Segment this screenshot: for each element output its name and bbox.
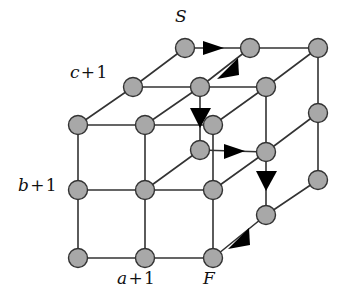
label-axis-a-var: a — [117, 268, 127, 288]
label-axis-a-num: 1 — [144, 268, 155, 288]
label-axis-b: b+1 — [18, 175, 57, 195]
lattice-figure: S c+1 b+1 a+1 F — [0, 0, 344, 305]
lattice-node — [204, 116, 223, 135]
lattice-node — [69, 181, 88, 200]
lattice-node — [191, 78, 210, 97]
lattice-node — [69, 249, 88, 268]
path-arrow-right — [203, 41, 224, 55]
lattice-node — [257, 78, 276, 97]
lattice-node — [309, 39, 328, 58]
path-arrow-depth-down — [228, 228, 250, 249]
lattice-node — [309, 104, 328, 123]
lattice-node — [176, 39, 195, 58]
label-axis-c-num: 1 — [96, 62, 107, 82]
lattice-node — [257, 206, 276, 225]
label-axis-a-op: + — [127, 268, 144, 288]
lattice-node — [124, 78, 143, 97]
label-axis-a: a+1 — [117, 268, 155, 288]
label-axis-c-op: + — [80, 62, 97, 82]
label-finish-vertex: F — [203, 268, 215, 288]
lattice-node — [136, 181, 155, 200]
path-arrow-right — [224, 144, 245, 159]
label-axis-b-num: 1 — [46, 175, 57, 195]
edge-depth-diag — [213, 215, 266, 258]
lattice-node — [309, 171, 328, 190]
label-axis-c-var: c — [70, 62, 80, 82]
lattice-node — [204, 181, 223, 200]
lattice-node — [136, 116, 155, 135]
label-axis-c: c+1 — [70, 62, 108, 82]
path-arrow-down — [256, 171, 277, 191]
lattice-node — [204, 249, 223, 268]
label-start-vertex: S — [175, 6, 187, 26]
label-axis-b-var: b — [18, 175, 29, 195]
lattice-node — [136, 249, 155, 268]
path-arrow-depth-up — [217, 58, 239, 79]
label-axis-b-op: + — [29, 175, 46, 195]
lattice-node — [69, 116, 88, 135]
edge-depth-diag — [145, 150, 200, 190]
lattice-node-interior — [191, 141, 210, 160]
lattice-diagram-svg — [0, 0, 344, 305]
lattice-node — [257, 143, 276, 162]
lattice-node — [241, 39, 260, 58]
